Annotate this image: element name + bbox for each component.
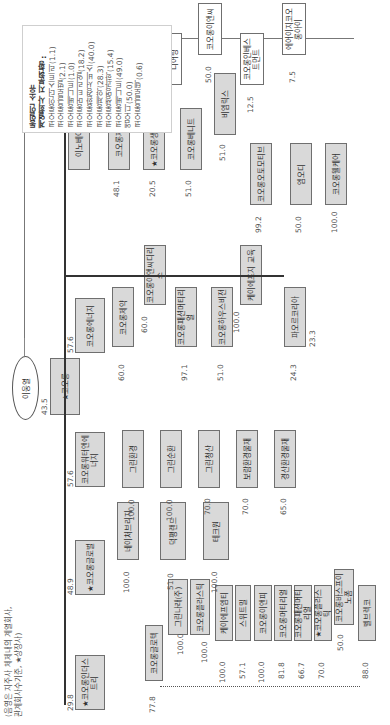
industry-child-glotech: 코오롱글로텍 — [145, 625, 163, 681]
legend-title-2: 계열회사 지분현황 : — [39, 30, 49, 128]
level2-global-stake: 48.9 — [66, 578, 75, 595]
water-child-green-env: 그린환경 — [122, 430, 144, 488]
legend-item: 코오롱베니트(1.0) — [67, 30, 77, 128]
global-child-deokpyeong-stake: 51.0 — [166, 573, 175, 590]
owner-link-line — [24, 338, 25, 356]
note-line-1: (음영은 지주사 체제내의 계열회사, — [4, 607, 14, 717]
industry-child-sweetmill-stake: 57.1 — [238, 662, 247, 679]
industry-child-greennare-label: 그린나래(주) — [174, 587, 183, 628]
legend-item: 코오롱생명과학(15.4) — [106, 30, 116, 128]
legend-item: 코오롱글로텍(0.6) — [135, 30, 145, 128]
industry-child-basf-stake: 50.0 — [336, 634, 345, 651]
industry-child-basf: 코오롱바스프이노폼 — [334, 569, 354, 625]
external-investment: 코오롱인베스트먼트 — [240, 33, 264, 85]
industry-child-plastic-listed-stake: 70.0 — [317, 662, 326, 679]
external-enc-stake: 50.0 — [204, 66, 213, 83]
industry-child-plastic-stake: 100.0 — [200, 642, 209, 663]
industry-child-material: 코오롱머티리얼 — [274, 585, 292, 641]
external-aeji-label: 에어이지코오롱아이 — [285, 5, 303, 53]
industry-child-plastic-listed: ★코오롱플라스틱 — [314, 585, 332, 641]
industry-child-belbrec-stake: 88.0 — [361, 662, 370, 679]
water-child-gyeongsan: 경산환경물재 — [274, 430, 296, 488]
water-child-boram-stake: 70.0 — [241, 498, 250, 515]
water-child-gyeongsan-label: 경산환경물재 — [281, 438, 290, 480]
legend-item: 코오롱베니트(49.0) — [115, 30, 125, 128]
global-child-naturebridge-stake: 100.0 — [122, 572, 131, 593]
industry-child-fashion-material-label: 코오롱패션머티리얼 — [294, 587, 312, 639]
external-investment-label: 코오롱인베스트먼트 — [243, 35, 261, 83]
industry-child-enp-stake: 100.0 — [257, 662, 266, 683]
industry-child-enp-label: 코오롱이앤피 — [259, 592, 268, 634]
level2-global: ★코오롱글로벌 — [75, 540, 105, 595]
energy-child-housevision-stake: 51.0 — [216, 364, 225, 381]
water-child-green-env-label: 그린환경 — [129, 445, 138, 473]
external-enc-label: 코오롱이앤씨 — [206, 8, 215, 50]
level2-industry-stake: 29.8 — [66, 694, 75, 711]
level2-water-label: 코오롱워터앤에너지 — [81, 434, 99, 485]
industry-child-kfmt-label: 케이에프엠티 — [220, 592, 229, 634]
owner-stake: 43.5 — [40, 398, 49, 415]
industry-child-material-stake: 81.8 — [277, 662, 286, 679]
external-investment-stake: 12.5 — [246, 96, 255, 113]
legend-item: 코오롱환경서비스(40.0) — [87, 30, 97, 128]
legend-item: 코오롱제약(28.3) — [96, 30, 106, 128]
ownership-legend-box: 동일인 소유 계열회사 지분현황 : 코오롱인더스트리(1.1) 코오롱글로벌(… — [22, 25, 172, 133]
industry-child-fashion-material: 코오롱패션머티리얼 — [294, 585, 312, 641]
note-line-2: 관계회사수기준, ★상장사) — [14, 607, 24, 717]
legend-title-1: 동일인 소유 — [29, 30, 39, 128]
level2-energy-stake: 57.6 — [66, 336, 75, 353]
water-child-green-clean-stake: 70.0 — [203, 498, 212, 515]
legend-item: 코오롱글로벌(2.1) — [58, 30, 68, 128]
external-aeji: 에어이지코오롱아이 — [282, 3, 306, 55]
level2-industry: ★코오롱인더스트리 — [75, 655, 105, 710]
global-child-techwon-label: 테크원 — [212, 521, 221, 542]
industry-child-sweetmill-label: 스위트밀 — [239, 599, 248, 627]
level2-water: 코오롱워터앤에너지 — [75, 432, 105, 487]
external-aeji-stake: 7.5 — [288, 71, 297, 83]
industry-child-material-label: 코오롱머티리얼 — [279, 589, 288, 638]
industry-child-kfmt-stake: 100.0 — [218, 662, 227, 683]
water-child-gyeongsan-stake: 65.0 — [279, 498, 288, 515]
industry-child-glotech-label: 코오롱글로텍 — [150, 632, 159, 674]
water-child-green-cycle-stake: 100.0 — [165, 500, 174, 521]
legend-item: 코오롱인더스트리(1.1) — [48, 30, 58, 128]
water-child-green-cycle-label: 그린순환 — [167, 445, 176, 473]
level2-industry-label: ★코오롱인더스트리 — [81, 657, 99, 708]
owner-label: 이웅열 — [20, 378, 31, 399]
industry-child-sweetmill: 스위트밀 — [235, 585, 251, 641]
industry-child-kfmt: 케이에프엠티 — [215, 585, 233, 641]
industry-child-greennare-stake: 100.0 — [176, 634, 185, 655]
energy-child-pharma-stake: 60.0 — [117, 364, 126, 381]
legend-item: 코오롱머티리얼(18.2) — [77, 30, 87, 128]
level2-global-label: ★코오롱글로벌 — [86, 543, 95, 592]
global-child-techwon-stake: 100.0 — [210, 572, 219, 593]
global-child-deokpyeong-label: 덕평랜드 — [169, 517, 178, 545]
water-child-boram: 보람환경물재 — [236, 430, 258, 488]
water-child-green-clean: 그린청산 — [198, 430, 220, 488]
legend-item: 엠오디(50.0) — [125, 30, 135, 128]
industry-child-basf-label: 코오롱바스프이노폼 — [335, 571, 353, 623]
industry-child-plastic: 코오롱플라스틱 — [190, 579, 210, 635]
industry-child-glotech-stake: 77.8 — [148, 696, 157, 713]
industry-vertical-dots — [160, 686, 360, 687]
industry-child-belbrec: 벨브렉코 — [358, 585, 376, 641]
energy-child-fashion-material-stake: 97.1 — [180, 364, 189, 381]
external-enc: 코오롱이앤씨 — [198, 3, 222, 55]
water-child-green-clean-label: 그린청산 — [205, 445, 214, 473]
industry-child-enp: 코오롱이앤피 — [254, 585, 272, 641]
energy-child-pao-korea-stake: 24.3 — [289, 364, 298, 381]
owner-ellipse: 이웅열 — [12, 356, 39, 420]
industry-child-belbrec-label: 벨브렉코 — [363, 599, 372, 627]
industry-child-plastic-label: 코오롱플라스틱 — [196, 583, 205, 632]
water-child-green-env-stake: 100.0 — [127, 500, 136, 521]
chart-note: (음영은 지주사 체제내의 계열회사, 관계회사수기준, ★상장사) — [4, 607, 23, 717]
water-child-boram-label: 보람환경물재 — [243, 438, 252, 480]
industry-child-plastic-listed-label: ★코오롱플라스틱 — [314, 587, 332, 639]
water-child-green-cycle: 그린순환 — [160, 430, 182, 488]
level2-water-stake: 57.6 — [66, 470, 75, 487]
industry-child-fashion-material-stake: 66.7 — [297, 662, 306, 679]
